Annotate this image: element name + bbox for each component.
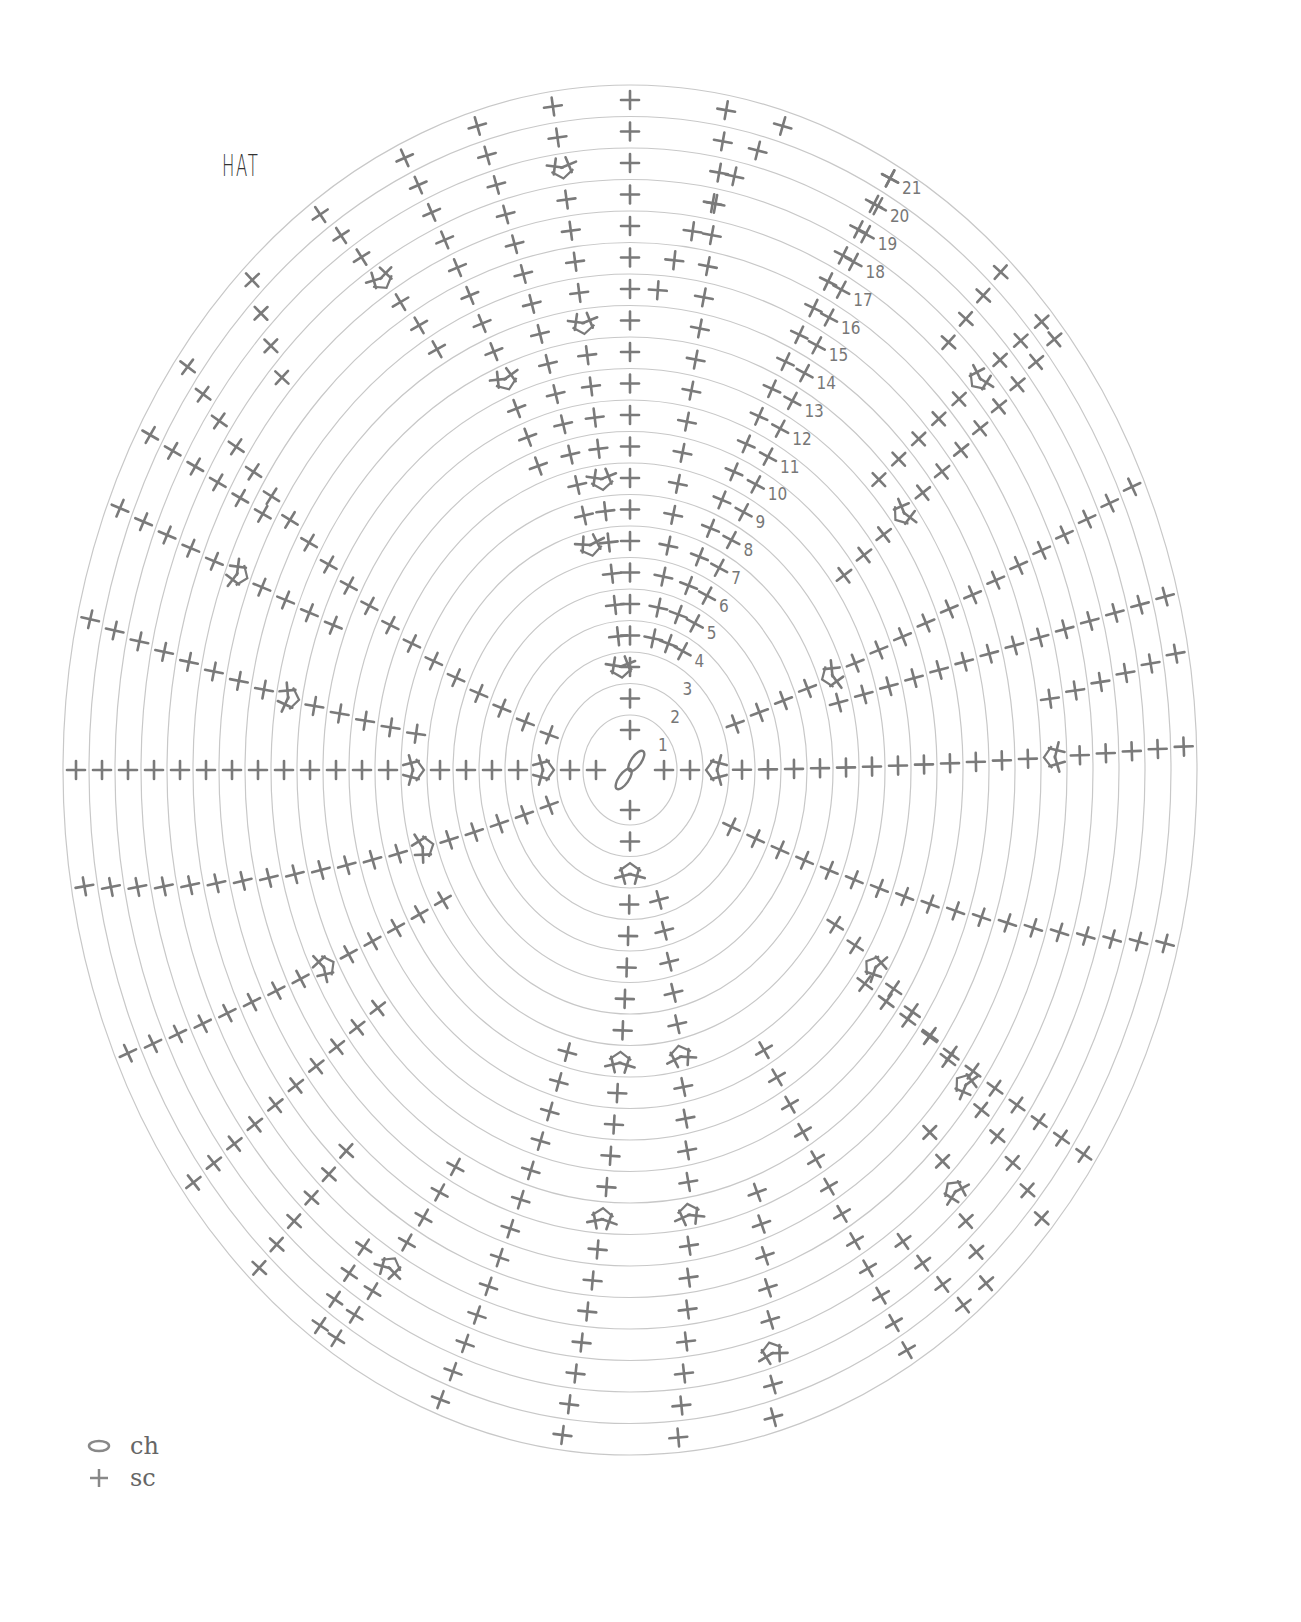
round-label-7: 7 xyxy=(731,568,741,588)
round-labels: 123456789101112131415161718192021 xyxy=(658,178,922,754)
sc-stitch-icon xyxy=(944,899,967,922)
sc-stitch-icon xyxy=(180,875,201,896)
sc-stitch-icon xyxy=(1027,1109,1052,1134)
sc-stitch-icon xyxy=(278,508,303,533)
sc-stitch-icon xyxy=(605,595,625,615)
sc-stitch-icon xyxy=(153,876,174,897)
sc-increase-icon xyxy=(585,1207,620,1232)
sc-stitch-icon xyxy=(583,1271,603,1291)
sc-stitch-icon xyxy=(104,620,125,641)
sc-stitch-icon xyxy=(379,761,397,779)
sc-stitch-icon xyxy=(561,761,579,779)
sc-stitch-icon xyxy=(512,263,534,285)
sc-stitch-icon xyxy=(250,575,273,598)
sc-stitch-icon xyxy=(720,815,744,839)
sc-stitch-icon xyxy=(930,1149,955,1174)
sc-stitch-icon xyxy=(337,573,361,597)
sc-stitch-icon xyxy=(828,692,850,714)
round-label-4: 4 xyxy=(695,651,705,671)
sc-stitch-icon xyxy=(837,758,855,776)
sc-stitch-icon xyxy=(241,459,266,484)
sc-stitch-icon xyxy=(457,761,475,779)
sc-increase-icon xyxy=(947,1065,986,1106)
sc-stitch-icon xyxy=(663,504,684,525)
sc-stitch-icon xyxy=(274,588,297,611)
sc-stitch-icon xyxy=(301,761,319,779)
sc-stitch-icon xyxy=(941,754,959,772)
sc-stitch-icon xyxy=(232,870,254,892)
sc-stitch-icon xyxy=(772,115,794,137)
sc-stitch-icon xyxy=(657,632,680,655)
sc-stitch-icon xyxy=(284,863,306,885)
sc-stitch-icon xyxy=(556,1041,578,1063)
sc-stitch-icon xyxy=(264,1232,289,1257)
legend: ch sc xyxy=(86,1430,159,1494)
sc-stitch-icon xyxy=(895,1007,920,1032)
round-label-11: 11 xyxy=(780,457,799,477)
sc-stitch-icon xyxy=(881,976,906,1001)
sc-stitch-icon xyxy=(748,701,771,724)
sc-stitch-icon xyxy=(856,1256,881,1281)
round-label-12: 12 xyxy=(792,429,811,449)
sc-stitch-icon xyxy=(483,761,501,779)
sc-increase-icon xyxy=(485,362,525,395)
sc-stitch-icon xyxy=(1104,602,1126,624)
sc-stitch-icon xyxy=(327,761,345,779)
sc-stitch-icon xyxy=(203,550,227,574)
sc-stitch-icon xyxy=(762,1374,784,1396)
sc-increase-icon xyxy=(613,863,647,886)
sc-stitch-icon xyxy=(316,552,341,577)
round-label-18: 18 xyxy=(866,262,885,282)
sc-stitch-icon xyxy=(605,1115,624,1134)
sc-stitch-icon xyxy=(731,500,755,524)
sc-stitch-icon xyxy=(608,626,628,646)
sc-stitch-icon xyxy=(930,1272,955,1297)
sc-stitch-icon xyxy=(621,438,639,456)
sc-stitch-icon xyxy=(734,432,758,456)
sc-stitch-icon xyxy=(817,1174,842,1199)
sc-stitch-icon xyxy=(547,127,567,147)
sc-stitch-icon xyxy=(759,760,777,778)
sc-stitch-icon xyxy=(987,347,1012,372)
sc-stitch-icon xyxy=(1123,742,1142,761)
sc-stitch-icon xyxy=(269,365,294,390)
sc-stitch-icon xyxy=(719,528,743,552)
sc-stitch-icon xyxy=(127,876,148,897)
sc-stitch-icon xyxy=(778,1092,803,1117)
sc-stitch-icon xyxy=(308,202,333,227)
sc-stitch-icon xyxy=(1174,737,1193,756)
sc-stitch-icon xyxy=(444,666,468,690)
sc-stitch-icon xyxy=(1008,328,1033,353)
sc-increase-icon xyxy=(671,1201,708,1229)
round-label-20: 20 xyxy=(890,206,909,226)
sc-stitch-icon xyxy=(621,123,639,141)
round-label-17: 17 xyxy=(853,290,872,310)
sc-stitch-icon xyxy=(724,166,745,187)
sc-stitch-icon xyxy=(1042,327,1067,352)
sc-stitch-icon xyxy=(206,470,231,495)
sc-stitch-icon xyxy=(669,1428,689,1448)
sc-stitch-icon xyxy=(513,803,536,826)
sc-stitch-icon xyxy=(648,889,670,911)
sc-stitch-icon xyxy=(504,233,526,255)
sc-stitch-icon xyxy=(191,382,216,407)
sc-stitch-icon xyxy=(108,496,132,520)
sc-stitch-icon xyxy=(621,690,639,708)
sc-stitch-icon xyxy=(621,280,639,298)
sc-stitch-icon xyxy=(223,761,241,779)
sc-stitch-icon xyxy=(228,486,253,511)
sc-stitch-icon xyxy=(1030,538,1054,562)
sc-stitch-icon xyxy=(709,162,730,183)
sc-stitch-icon xyxy=(811,759,829,777)
sc-stitch-icon xyxy=(754,1244,777,1267)
sc-stitch-icon xyxy=(685,349,706,370)
sc-stitch-icon xyxy=(443,1155,467,1179)
sc-stitch-icon xyxy=(458,284,481,307)
sc-stitch-icon xyxy=(446,256,470,280)
sc-stitch-icon xyxy=(197,761,215,779)
sc-stitch-icon xyxy=(970,906,993,929)
sc-stitch-icon xyxy=(648,597,669,618)
sc-stitch-icon xyxy=(1075,507,1099,531)
sc-stitch-icon xyxy=(406,173,430,197)
sc-stitch-icon xyxy=(953,1208,978,1233)
